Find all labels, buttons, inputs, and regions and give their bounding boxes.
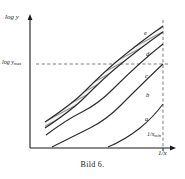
curve-label-b: b bbox=[146, 92, 149, 99]
x-tick-subscript: min bbox=[154, 133, 161, 138]
figure-bild-6: log y log ymax 1/xmin 1/x e d c b a Bild… bbox=[0, 0, 185, 179]
curve-a bbox=[108, 104, 163, 147]
y-tick-subscript: max bbox=[14, 61, 21, 66]
curve-label-a: a bbox=[145, 116, 148, 123]
y-axis bbox=[28, 14, 33, 148]
curve-label-e: e bbox=[144, 30, 147, 37]
curve-label-c: c bbox=[145, 73, 148, 80]
figure-caption: Bild 6. bbox=[0, 160, 185, 169]
x-axis-label: 1/x bbox=[158, 150, 167, 157]
x-tick-label-1-over-xmin: 1/xmin bbox=[147, 131, 161, 138]
curve-label-d: d bbox=[146, 51, 149, 58]
y-tick-label-log-ymax: log ymax bbox=[2, 59, 21, 66]
x-axis bbox=[30, 146, 176, 151]
y-axis-label: log y bbox=[5, 14, 19, 21]
